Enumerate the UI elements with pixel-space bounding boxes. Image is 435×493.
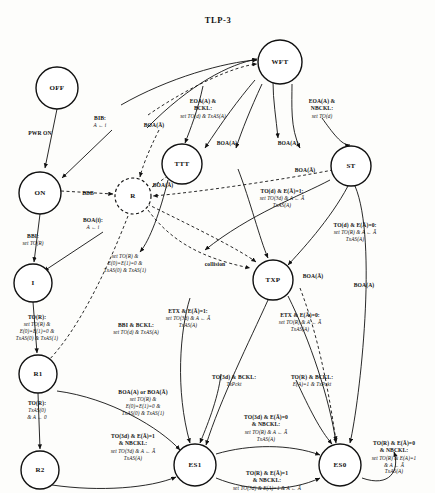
transition-label-tor-bckl: TO(R) & BCKL:E(A)=1 & TxPckt bbox=[291, 374, 333, 388]
transition-condition: EOA(A) & bbox=[180, 98, 226, 105]
transition-condition: BOA(Ā) bbox=[153, 182, 174, 189]
diagram-title: TLP-3 bbox=[205, 15, 232, 25]
transition-condition: TO(d) & E(Ā)=0: bbox=[333, 222, 376, 229]
transition-label-bbb: BBB bbox=[82, 190, 94, 197]
transition-action: E(0)=E(1)=0 & bbox=[16, 328, 58, 335]
state-label-r: R bbox=[130, 192, 136, 200]
transition-condition: TO(R): bbox=[27, 400, 46, 407]
transition-condition: BOA(A) bbox=[354, 282, 375, 289]
transition-action: set TO(d) bbox=[309, 113, 336, 120]
transition-label-eoa-bckl: EOA(A) &BCKL:set TO(d) & TxAS(A) bbox=[180, 98, 226, 120]
state-label-wft: WFT bbox=[272, 58, 289, 66]
transition-condition: BOA(Ā) bbox=[144, 122, 165, 129]
transition-condition: TO(R) & BCKL: bbox=[291, 374, 333, 381]
transition-action: TxAS(A) bbox=[244, 436, 288, 443]
transition-label-boa-abar-st: BOA(Ā) bbox=[295, 167, 316, 174]
transition-action: set TO(d) & TxAS(A) bbox=[113, 329, 159, 336]
transition-action: set TO(R) & bbox=[118, 396, 167, 403]
transition-label-to3d-bckl: TO(3d) & BCKL:TxPckt bbox=[212, 374, 256, 388]
state-label-ttt: TTT bbox=[175, 160, 190, 168]
transition-condition: collision bbox=[205, 261, 225, 268]
transition-action: set TO(R) bbox=[22, 240, 43, 247]
transition-action: E(0)=E(1)=0 & bbox=[104, 260, 146, 267]
transition-action: & A ← Ā bbox=[372, 462, 417, 469]
transition-condition: TO(R) & E(Ā)=1 bbox=[233, 470, 301, 477]
state-label-r1: R1 bbox=[33, 370, 42, 378]
transition-condition: PWR ON bbox=[28, 130, 51, 137]
transition-label-bbi-bckl: BBI & BCKL:set TO(d) & TxAS(A) bbox=[113, 322, 159, 336]
transition-action: A ← i bbox=[83, 224, 103, 231]
transition-label-to-r-i: TO(R):set TO(R) &E(0)=E(1)=0 &TxAS(0) & … bbox=[16, 314, 58, 342]
state-label-r2: R2 bbox=[35, 466, 44, 474]
transition-condition: TO(d) & E(Ā)=1: bbox=[260, 188, 305, 195]
transition-label-boa-i: BOA(i):A ← i bbox=[83, 217, 103, 231]
transition-label-pwr-on: PWR ON bbox=[28, 130, 51, 137]
transition-action: TxAS(0) & TxAS(1) bbox=[104, 267, 146, 274]
transition-condition: BBB bbox=[82, 190, 94, 197]
transition-action: E(0)=E(1)=0 & bbox=[118, 403, 167, 410]
state-label-st: ST bbox=[346, 162, 355, 170]
transition-condition: ETX & E(Ā)=1: bbox=[166, 308, 211, 315]
transition-condition: ETX & E(Ā)=0: bbox=[279, 312, 321, 319]
transition-action: set TO(R) & A ← Ā bbox=[333, 229, 376, 236]
transition-action: set TO(R) & A ← Ā bbox=[279, 319, 321, 326]
transition-condition: BIB: bbox=[94, 115, 107, 122]
transition-action: set TO(3d) & A ← Ā bbox=[111, 448, 156, 455]
transition-condition: TO(R) & E(Ā)=0 bbox=[372, 440, 417, 447]
transition-label-eoa-nbckl: EOA(A) &NBCKL:set TO(d) bbox=[309, 98, 336, 120]
transition-label-to3d-e0-nbckl: TO(3d) & E(Ā)=0& NBCKL:set TO(R) & A ← Ā… bbox=[244, 414, 288, 442]
state-label-on: ON bbox=[34, 189, 45, 197]
transition-label-boa-a-1: BOA(A) bbox=[217, 140, 238, 147]
transition-action: TxAS(A) bbox=[372, 468, 417, 475]
transition-condition: TO(3d) & E(Ā)=0 bbox=[244, 414, 288, 421]
transition-action: set TO(3d) & A ← Ā bbox=[260, 195, 305, 202]
state-label-i: I bbox=[31, 279, 34, 287]
transition-label-tor-e1-nbckl: TO(R) & E(Ā)=1& NBCKL:set TO(3d) & E(A)=… bbox=[233, 470, 301, 492]
transition-condition: BOA(A) bbox=[217, 140, 238, 147]
transition-action: set TO(d) & TxAS(A) bbox=[180, 113, 226, 120]
transition-condition: EOA(A) & bbox=[309, 98, 336, 105]
transition-condition: BOA(Ā) bbox=[295, 167, 316, 174]
transition-label-tor-e0-nbckl: TO(R) & E(Ā)=0& NBCKL:set TO(R) & E(A)=1… bbox=[372, 440, 417, 475]
transition-label-boa-abar-2: BOA(Ā) bbox=[153, 182, 174, 189]
transition-label-bib: BIB:A ← i bbox=[94, 115, 107, 129]
transition-action: TxAS(0) & TxAS(1) bbox=[16, 335, 58, 342]
diagram-canvas: OFF ON I R1 R2 R TTT WFT ST TXP ES1 ES0 bbox=[0, 0, 435, 493]
transition-action: TxAS(A) bbox=[166, 322, 211, 329]
transition-action: set TO(R) & bbox=[16, 321, 58, 328]
solid-transitions bbox=[33, 59, 396, 489]
transition-condition: & NBCKL: bbox=[244, 421, 288, 428]
transition-action: & A ← 0 bbox=[27, 414, 46, 421]
transition-label-boa-a-2: BOA(A) bbox=[278, 140, 299, 147]
transition-condition: NBCKL: bbox=[309, 105, 336, 112]
transition-condition: & NBCKL: bbox=[372, 447, 417, 454]
transition-condition: BBI & BCKL: bbox=[113, 322, 159, 329]
transition-condition: BBI: bbox=[22, 233, 43, 240]
state-label-es1: ES1 bbox=[189, 461, 202, 469]
transition-condition: BOA(Ā) bbox=[303, 273, 324, 280]
transition-action: TxAS(A) bbox=[260, 202, 305, 209]
transition-action: set TO(3d) & A ← Ā bbox=[166, 315, 211, 322]
transition-condition: TO(R): bbox=[16, 314, 58, 321]
diagram-graphics: OFF ON I R1 R2 R TTT WFT ST TXP ES1 ES0 bbox=[0, 0, 435, 493]
transition-action: TxAS(A) bbox=[111, 455, 156, 462]
transition-label-to-d-e1: TO(d) & E(Ā)=1:set TO(3d) & A ← ĀTxAS(A) bbox=[260, 188, 305, 209]
transition-action: set TO(R) & bbox=[104, 253, 146, 260]
transition-condition: BOA(A) bbox=[278, 140, 299, 147]
transition-label-etx-e0: ETX & E(Ā)=0:set TO(R) & A ← ĀTxAS(A) bbox=[279, 312, 321, 333]
transition-label-to3d-e1-nbckl: TO(3d) & E(Ā)=1& NBCKL:set TO(3d) & A ← … bbox=[111, 433, 156, 461]
transition-action: TxAS(A) bbox=[279, 326, 321, 333]
transition-condition: BOA(A) or BOA(Ā) bbox=[118, 389, 167, 396]
transition-condition: TO(3d) & E(Ā)=1 bbox=[111, 433, 156, 440]
transition-label-boa-abar-1: BOA(Ā) bbox=[144, 122, 165, 129]
transition-action: TxPckt bbox=[212, 381, 256, 388]
transition-label-to-r-r1: TO(R):TxAS(0)& A ← 0 bbox=[27, 400, 46, 421]
transition-action: set TO(R) & E(A)=1 bbox=[372, 455, 417, 462]
transition-label-to-d-e0: TO(d) & E(Ā)=0:set TO(R) & A ← ĀTxAS(A) bbox=[333, 222, 376, 243]
transition-action: E(A)=1 & TxPckt bbox=[291, 381, 333, 388]
state-label-es0: ES0 bbox=[334, 461, 347, 469]
transition-condition: BCKL: bbox=[180, 105, 226, 112]
transition-action: TxAS(0) & TxAS(1) bbox=[118, 410, 167, 417]
transition-label-collision: collision bbox=[205, 261, 225, 268]
transition-action: set TO(3d) & E(A)=1 & A ← Ā bbox=[233, 485, 301, 492]
